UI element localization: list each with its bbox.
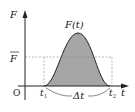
t1-subscript: 1: [44, 93, 47, 99]
y-axis-label: F: [9, 9, 18, 20]
t2-subscript: 2: [113, 93, 116, 99]
impulse-area: [44, 33, 110, 86]
origin-label: O: [13, 88, 20, 98]
y-axis-arrow-icon: [23, 10, 28, 18]
duration-label: Δt: [72, 90, 85, 101]
curve-label: F(t): [64, 19, 84, 30]
x-axis-label: t: [121, 87, 126, 98]
force-time-diagram: F F(t) F O t 1 Δt t 2 t: [0, 0, 135, 112]
mean-force-label: F: [9, 53, 18, 64]
